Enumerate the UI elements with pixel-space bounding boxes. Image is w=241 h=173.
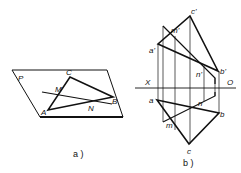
label-n: n — [198, 99, 203, 108]
label-point-c: C — [66, 68, 72, 77]
label-c: c — [187, 147, 191, 156]
label-m: m — [166, 121, 173, 130]
label-axis-x: X — [144, 78, 151, 87]
label-b: b — [220, 110, 225, 119]
caption-a: a ) — [73, 149, 84, 159]
label-axis-o: O — [227, 78, 233, 87]
label-point-m: M — [55, 85, 62, 94]
diagram-a: P C M B A N a ) — [12, 68, 123, 159]
label-plane-p: P — [18, 74, 24, 83]
label-a-prime: a' — [149, 46, 155, 55]
label-b-prime: b' — [220, 67, 226, 76]
caption-b: b ) — [183, 158, 194, 168]
label-point-a: A — [40, 108, 46, 117]
label-point-b: B — [112, 97, 118, 106]
label-c-prime: c' — [191, 7, 197, 16]
label-point-n: N — [88, 104, 94, 113]
label-a: a — [149, 96, 154, 105]
figure: P C M B A N a ) X O c' m' a' n' b' — [0, 0, 241, 173]
label-n-prime: n' — [196, 70, 202, 79]
front-triangle — [158, 16, 218, 71]
label-m-prime: m' — [171, 26, 180, 35]
diagram-b: X O c' m' a' n' b' a n b m c b ) — [135, 7, 236, 168]
